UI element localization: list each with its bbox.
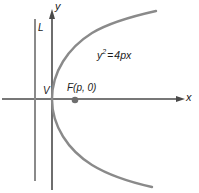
directrix-label: L (38, 23, 44, 33)
parabola-diagram-svg (0, 0, 199, 193)
vertex-label: V (43, 86, 50, 96)
parabola-lower-branch (52, 99, 152, 187)
equation-label: y2=4px (97, 48, 131, 60)
x-axis-label: x (186, 92, 192, 103)
focus-point-dot (72, 97, 79, 104)
y-axis-label: y (55, 1, 61, 12)
equation-right-side: 4px (114, 49, 131, 61)
parabola-figure: y x L V F(p, 0) y2=4px (0, 0, 199, 193)
focus-label: F(p, 0) (67, 83, 96, 93)
x-axis-arrowhead (176, 96, 185, 102)
